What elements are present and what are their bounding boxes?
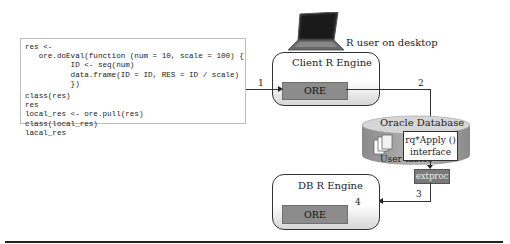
- code-panel: res <- ore.doEval(function (num = 10, sc…: [20, 38, 246, 124]
- database-title: Oracle Database: [380, 117, 464, 128]
- step-3-label: 3: [416, 189, 422, 199]
- code-line: class(res): [25, 92, 245, 101]
- laptop-label: R user on desktop: [346, 37, 438, 48]
- db-ore-box: ORE: [282, 205, 348, 224]
- arrow-1-head: [278, 86, 283, 92]
- bottom-rule: [5, 241, 503, 243]
- code-line: res: [25, 101, 245, 110]
- tables-icon: [372, 134, 394, 156]
- code-line: }): [25, 80, 245, 89]
- code-line: local_res <- ore.pull(res): [25, 110, 245, 119]
- code-line: res <-: [25, 43, 245, 52]
- code-line: class(local_res): [25, 120, 245, 129]
- code-line: ID <- seq(num): [25, 61, 245, 70]
- step-4-label: 4: [355, 197, 361, 207]
- code-line: ore.doEval(function (num = 10, scale = 1…: [25, 52, 245, 61]
- code-line: data.frame(ID = ID, RES = ID / scale): [25, 71, 245, 80]
- client-ore-box: ORE: [282, 82, 348, 100]
- interface-label-2: interface: [404, 146, 457, 158]
- extproc-box: extproc: [414, 169, 450, 184]
- step-1-label: 1: [258, 78, 264, 88]
- interface-label-1: rq*Apply (): [404, 134, 457, 146]
- arrow-2-h-line: [346, 89, 430, 90]
- arrow-3-v-line: [430, 183, 431, 201]
- arrow-3-h-line: [382, 201, 431, 202]
- rq-apply-interface-box: rq*Apply () interface: [403, 131, 458, 161]
- step-2-label: 2: [418, 78, 424, 88]
- arrow-1-line: [246, 89, 279, 90]
- laptop-icon: [286, 12, 346, 52]
- db-engine-title: DB R Engine: [298, 180, 363, 191]
- client-engine-title: Client R Engine: [292, 57, 372, 68]
- code-line: lacal_res: [25, 129, 245, 138]
